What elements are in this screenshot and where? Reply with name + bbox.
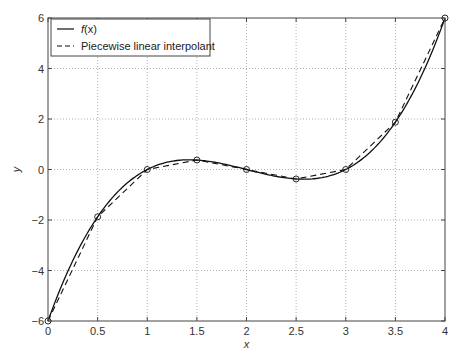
x-tick-label: 4: [442, 325, 448, 337]
legend-fx-arg: (x): [84, 23, 97, 35]
x-tick-label: 2: [243, 325, 249, 337]
y-tick-label: 0: [38, 164, 44, 176]
legend: f(x) Piecewise linear interpolant: [51, 19, 215, 56]
x-tick-label: 3: [343, 325, 349, 337]
y-tick-label: −6: [31, 315, 44, 327]
y-tick-label: 6: [38, 12, 44, 24]
x-tick-label: 2.5: [288, 325, 303, 337]
x-tick-label: 1.5: [189, 325, 204, 337]
y-tick-label: −2: [31, 214, 44, 226]
x-tick-label: 3.5: [388, 325, 403, 337]
x-axis-label: x: [243, 338, 250, 350]
y-tick-label: −4: [31, 265, 44, 277]
y-axis-label: y: [10, 165, 22, 173]
x-tick-label: 0: [45, 325, 51, 337]
legend-entry-interpolant: Piecewise linear interpolant: [81, 40, 215, 52]
x-tick-label: 1: [144, 325, 150, 337]
y-tick-label: 2: [38, 113, 44, 125]
x-tick-label: 0.5: [90, 325, 105, 337]
y-tick-label: 4: [38, 63, 44, 75]
chart: 00.511.522.533.54 −6−4−20246 x y f(x) Pi…: [0, 0, 461, 361]
legend-entry-fx: f(x): [81, 23, 97, 35]
